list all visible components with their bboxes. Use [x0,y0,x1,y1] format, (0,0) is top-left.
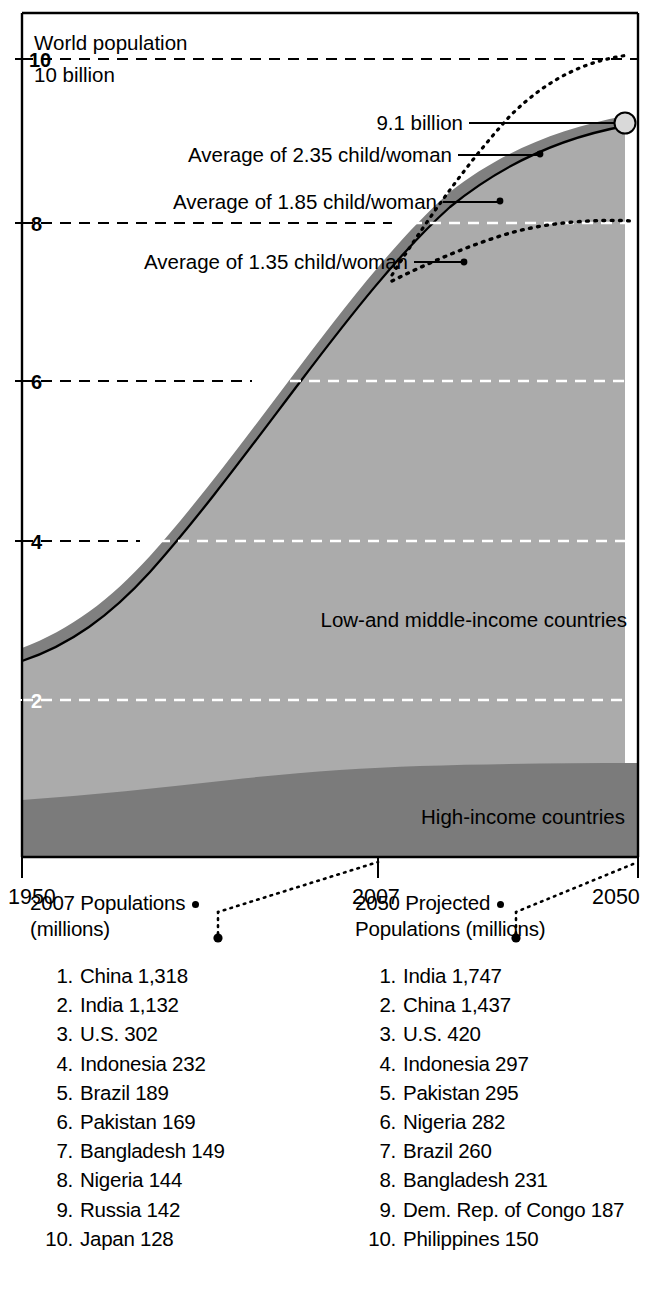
callout-fertility-mid: Average of 1.85 child/woman [173,190,437,213]
callout-fertility-high: Average of 2.35 child/woman [188,143,452,166]
list-item-entry: Bangladesh 149 [73,1136,225,1165]
list-item-entry: China 1,437 [396,990,511,1019]
ranking-2050-heading-line2: Populations (millions) [355,917,545,940]
list-item: 4.Indonesia 297 [355,1049,662,1078]
list-item-entry: Pakistan 169 [73,1107,196,1136]
y-label-10: 10 [29,49,51,71]
y-label-4: 4 [31,531,43,553]
ranking-2050-items: 1.India 1,747 2.China 1,437 3.U.S. 420 4… [355,961,662,1253]
leader-dot-235 [537,151,544,158]
list-item-rank: 5. [45,1078,73,1107]
list-item: 8.Bangladesh 231 [355,1165,662,1194]
list-item-rank: 8. [45,1165,73,1194]
ranking-2007: 2007 Populations(millions) 1.China 1,318… [30,890,330,1253]
leader-dot-135 [461,259,468,266]
population-rankings: 2007 Populations(millions) 1.China 1,318… [0,890,662,1308]
list-item-entry: U.S. 302 [73,1019,158,1048]
list-item-entry: Russia 142 [73,1195,180,1224]
list-item-rank: 7. [45,1136,73,1165]
heading-dot-icon [497,901,504,908]
list-item-rank: 6. [368,1107,396,1136]
list-item-entry: Pakistan 295 [396,1078,519,1107]
list-item-entry: Nigeria 144 [73,1165,182,1194]
list-item-rank: 4. [368,1049,396,1078]
list-item-rank: 6. [45,1107,73,1136]
list-item: 5.Pakistan 295 [355,1078,662,1107]
list-item-entry: China 1,318 [73,961,188,990]
list-item: 9.Dem. Rep. of Congo 187 [355,1195,662,1224]
list-item-rank: 2. [368,990,396,1019]
callout-peak: 9.1 billion [376,111,463,134]
list-item: 2.China 1,437 [355,990,662,1019]
list-item: 10.Japan 128 [30,1224,330,1253]
chart-title: World population [34,31,187,54]
callout-fertility-low: Average of 1.35 child/woman [144,250,408,273]
list-item: 10.Philippines 150 [355,1224,662,1253]
list-item-rank: 1. [368,961,396,990]
list-item: 8.Nigeria 144 [30,1165,330,1194]
band-label-high-income: High-income countries [421,805,625,828]
list-item-rank: 1. [45,961,73,990]
list-item-rank: 5. [368,1078,396,1107]
list-item: 4.Indonesia 232 [30,1049,330,1078]
ranking-2007-heading-line1: 2007 Populations [30,891,185,914]
list-item-entry: India 1,132 [73,990,179,1019]
list-item-entry: Bangladesh 231 [396,1165,548,1194]
list-item-entry: Dem. Rep. of Congo 187 [396,1195,624,1224]
list-item-entry: Brazil 260 [396,1136,492,1165]
ranking-2050-heading-line1: 2050 Projected [355,891,490,914]
list-item-rank: 9. [368,1195,396,1224]
list-item-rank: 7. [368,1136,396,1165]
list-item-entry: Japan 128 [73,1224,174,1253]
list-item-rank: 9. [45,1195,73,1224]
list-item-entry: Brazil 189 [73,1078,169,1107]
list-item-entry: Indonesia 297 [396,1049,529,1078]
ranking-2007-heading: 2007 Populations(millions) [30,890,330,942]
list-item-rank: 3. [45,1019,73,1048]
list-item: 3.U.S. 420 [355,1019,662,1048]
ranking-2007-heading-line2: (millions) [30,917,110,940]
list-item: 6.Nigeria 282 [355,1107,662,1136]
list-item: 7.Bangladesh 149 [30,1136,330,1165]
leader-dot-185 [497,198,504,205]
list-item-entry: India 1,747 [396,961,502,990]
peak-marker-9-1-billion [615,113,636,134]
list-item-entry: Philippines 150 [396,1224,538,1253]
ranking-2050-heading: 2050 ProjectedPopulations (millions) [355,890,662,942]
ranking-2007-items: 1.China 1,318 2.India 1,132 3.U.S. 302 4… [30,961,330,1253]
list-item-entry: U.S. 420 [396,1019,481,1048]
y-label-8: 8 [31,213,42,235]
y-label-6: 6 [31,371,42,393]
list-item-rank: 3. [368,1019,396,1048]
list-item: 7.Brazil 260 [355,1136,662,1165]
list-item: 1.India 1,747 [355,961,662,990]
list-item-rank: 10. [368,1224,396,1253]
band-label-low-middle-income: Low-and middle-income countries [320,608,627,631]
list-item-rank: 2. [45,990,73,1019]
list-item: 9.Russia 142 [30,1195,330,1224]
list-item: 6.Pakistan 169 [30,1107,330,1136]
list-item: 3.U.S. 302 [30,1019,330,1048]
list-item: 5.Brazil 189 [30,1078,330,1107]
list-item-entry: Nigeria 282 [396,1107,505,1136]
world-population-chart: World population 10 billion 9.1 billion … [0,0,662,960]
heading-dot-icon [192,901,199,908]
list-item-rank: 4. [45,1049,73,1078]
ranking-2050: 2050 ProjectedPopulations (millions) 1.I… [355,890,662,1253]
y-label-2: 2 [31,690,42,712]
list-item: 1.China 1,318 [30,961,330,990]
list-item-entry: Indonesia 232 [73,1049,206,1078]
list-item: 2.India 1,132 [30,990,330,1019]
population-figure: World population 10 billion 9.1 billion … [0,0,662,1308]
list-item-rank: 10. [45,1224,73,1253]
list-item-rank: 8. [368,1165,396,1194]
